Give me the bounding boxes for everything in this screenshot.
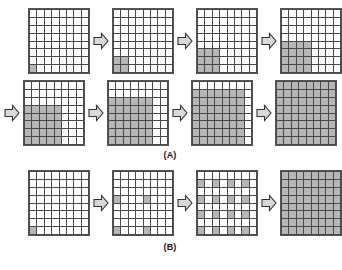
grid-cell-filled — [139, 137, 145, 144]
grid-cell-empty — [161, 90, 167, 97]
grid-8x8 — [107, 80, 169, 146]
grid-cell-empty — [213, 42, 219, 49]
grid-cell-empty — [158, 57, 164, 64]
grid-cell-empty — [129, 227, 135, 234]
grid-cell-filled — [116, 106, 122, 113]
grid-cell-empty — [40, 90, 46, 97]
grid-cell-empty — [60, 172, 66, 179]
grid-8x8 — [23, 80, 85, 146]
grid-cell-filled — [284, 114, 290, 121]
grid-cell-empty — [304, 10, 310, 17]
grid-cell-empty — [114, 10, 120, 17]
grid-cell-empty — [334, 18, 340, 25]
grid-cell-empty — [235, 204, 241, 211]
grid-cell-empty — [215, 82, 221, 89]
grid-cell-empty — [235, 65, 241, 72]
grid-cell-filled — [47, 114, 53, 121]
grid-cell-empty — [55, 90, 61, 97]
grid-cell-filled — [304, 196, 310, 203]
grid-cell-empty — [52, 42, 58, 49]
grid-cell-empty — [67, 18, 73, 25]
grid-cell-empty — [158, 196, 164, 203]
grid-cell-filled — [326, 211, 332, 218]
grid-cell-filled — [25, 121, 31, 128]
grid-cell-empty — [158, 204, 164, 211]
grid-cell-empty — [245, 106, 251, 113]
grid-cell-empty — [47, 98, 53, 105]
grid-cell-filled — [312, 188, 318, 195]
grid-cell-empty — [114, 219, 120, 226]
grid-cell-filled — [277, 137, 283, 144]
grid-cell-empty — [131, 82, 137, 89]
grid-cell-filled — [289, 49, 295, 56]
grid-cell-empty — [235, 57, 241, 64]
grid-cell-filled — [334, 196, 340, 203]
grid-cell-empty — [74, 188, 80, 195]
grid-cell-filled — [230, 106, 236, 113]
grid-cell-empty — [37, 204, 43, 211]
grid-cell-empty — [52, 227, 58, 234]
grid-cell-empty — [30, 26, 36, 33]
grid-8x8 — [196, 8, 258, 74]
grid-cell-filled — [277, 90, 283, 97]
grid-cell-empty — [198, 204, 204, 211]
grid-cell-empty — [153, 129, 159, 136]
panel-a: (A) — [0, 4, 340, 170]
sequence-arrow-2 — [177, 31, 193, 51]
grid-cell-empty — [250, 34, 256, 41]
grid-cell-empty — [136, 42, 142, 49]
grid-cell-filled — [32, 129, 38, 136]
grid-cell-filled — [277, 129, 283, 136]
grid-cell-empty — [166, 172, 172, 179]
grid-cell-empty — [245, 129, 251, 136]
grid-cell-filled — [32, 106, 38, 113]
grid-cell-empty — [198, 188, 204, 195]
grid-cell-empty — [45, 211, 51, 218]
grid-cell-empty — [121, 42, 127, 49]
grid-cell-empty — [161, 114, 167, 121]
grid-cell-empty — [220, 65, 226, 72]
grid-cell-filled — [213, 227, 219, 234]
grid-cell-empty — [282, 26, 288, 33]
grid-cell-filled — [326, 196, 332, 203]
grid-cell-filled — [30, 65, 36, 72]
grid-cell-empty — [114, 18, 120, 25]
grid-cell-filled — [304, 227, 310, 234]
grid-cell-filled — [40, 129, 46, 136]
grid-cell-filled — [277, 82, 283, 89]
grid-cell-filled — [304, 219, 310, 226]
grid-cell-filled — [144, 227, 150, 234]
grid-cell-empty — [304, 34, 310, 41]
grid-cell-filled — [297, 65, 303, 72]
grid-cell-filled — [237, 106, 243, 113]
grid-cell-filled — [193, 137, 199, 144]
grid-cell-filled — [230, 114, 236, 121]
grid-cell-empty — [45, 42, 51, 49]
grid-cell-empty — [304, 26, 310, 33]
grid-cell-filled — [213, 57, 219, 64]
grid-cell-empty — [37, 42, 43, 49]
panel-a-sequence-row-1 — [0, 4, 340, 78]
grid-cell-empty — [60, 26, 66, 33]
grid-cell-empty — [166, 65, 172, 72]
grid-cell-empty — [334, 34, 340, 41]
grid-cell-empty — [69, 121, 75, 128]
grid-cell-empty — [326, 26, 332, 33]
grid-cell-empty — [319, 42, 325, 49]
grid-cell-empty — [52, 172, 58, 179]
grid-cell-empty — [30, 180, 36, 187]
grid-cell-empty — [37, 211, 43, 218]
step-a6-grid — [107, 80, 169, 146]
grid-cell-filled — [297, 204, 303, 211]
grid-cell-filled — [213, 49, 219, 56]
grid-cell-empty — [326, 34, 332, 41]
grid-cell-empty — [114, 26, 120, 33]
grid-cell-filled — [213, 211, 219, 218]
grid-cell-empty — [220, 57, 226, 64]
grid-cell-filled — [297, 57, 303, 64]
grid-cell-filled — [304, 57, 310, 64]
grid-cell-empty — [136, 180, 142, 187]
grid-cell-empty — [282, 34, 288, 41]
grid-cell-empty — [326, 10, 332, 17]
grid-cell-empty — [67, 180, 73, 187]
